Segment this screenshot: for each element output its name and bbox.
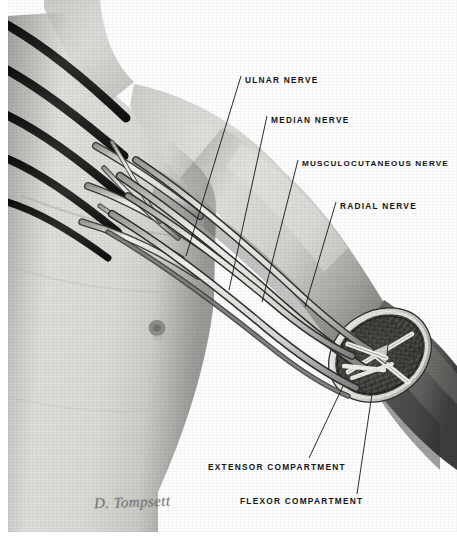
body-silhouette: [8, 0, 412, 532]
label-ulnar-nerve: ULNAR NERVE: [245, 76, 319, 84]
illustration-field: ULNAR NERVE MEDIAN NERVE MUSCULOCUTANEOU…: [8, 0, 457, 532]
artist-signature: D. Tompsett: [94, 493, 171, 513]
nipple-core: [153, 324, 161, 331]
label-musculocutaneous-nerve: MUSCULOCUTANEOUS NERVE: [302, 160, 449, 168]
label-extensor-compartment: EXTENSOR COMPARTMENT: [208, 463, 346, 471]
nipple-shadow: [153, 335, 163, 341]
label-flexor-compartment: FLEXOR COMPARTMENT: [240, 497, 363, 505]
label-median-nerve: MEDIAN NERVE: [271, 116, 349, 124]
label-radial-nerve: RADIAL NERVE: [340, 202, 417, 210]
leader-flexor-compartment: [357, 394, 372, 494]
anatomy-artwork: [8, 0, 457, 532]
leader-extensor-compartment: [309, 386, 343, 458]
illustration-plate: ULNAR NERVE MEDIAN NERVE MUSCULOCUTANEOU…: [0, 0, 457, 540]
